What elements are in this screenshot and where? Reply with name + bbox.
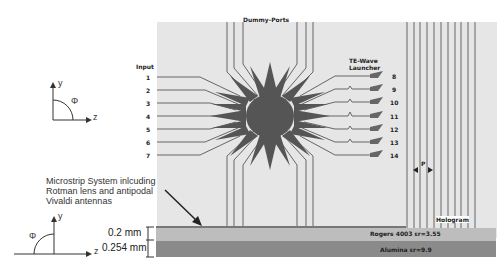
bottom-axis-y-label: y	[58, 211, 63, 222]
output-port-10: 10	[390, 99, 398, 106]
te-wave-launchers	[370, 71, 383, 157]
rotman-lens	[210, 62, 330, 170]
period-arrows	[413, 167, 433, 173]
hologram-label: Hologram	[436, 216, 469, 223]
hologram-lines	[407, 22, 475, 238]
bottom-axes	[14, 218, 90, 254]
period-label: P	[421, 160, 425, 167]
rogers-layer	[156, 228, 496, 241]
input-port-2: 2	[146, 87, 150, 94]
input-port-3: 3	[146, 100, 150, 107]
input-port-5: 5	[146, 126, 150, 133]
input-port-1: 1	[146, 74, 150, 81]
output-port-9: 9	[392, 86, 396, 93]
output-port-13: 13	[390, 139, 398, 146]
launcher-label-2: Launcher	[349, 64, 380, 71]
input-port-4: 4	[146, 113, 150, 120]
launcher-label-1: TE-Wave	[349, 57, 378, 64]
output-port-12: 12	[390, 126, 398, 133]
input-port-6: 6	[146, 139, 150, 146]
bottom-axis-angle-label: Φ	[29, 231, 36, 242]
bottom-axis-z-label: z	[94, 246, 99, 257]
alumina-layer	[156, 241, 496, 257]
input-label: Input	[136, 63, 154, 70]
top-axis-y-label: y	[58, 78, 63, 89]
dimension-top: 0.2 mm	[108, 227, 141, 238]
dummy-ports-label: Dummy-Ports	[243, 16, 289, 23]
microstrip-note-line-3: Vivaldi antennas	[46, 196, 112, 207]
rogers-label: Rogers 4003 εr=3.55	[370, 230, 441, 237]
input-port-7: 7	[146, 152, 150, 159]
top-axis-angle-label: Φ	[71, 96, 78, 107]
output-port-14: 14	[390, 152, 398, 159]
dimension-markers	[146, 227, 154, 257]
output-port-11: 11	[390, 113, 398, 120]
alumina-label: Alumina εr=9.9	[380, 246, 432, 253]
output-port-8: 8	[392, 73, 396, 80]
top-axis-z-label: z	[93, 112, 98, 123]
dimension-bottom: 0.254 mm	[102, 242, 146, 253]
